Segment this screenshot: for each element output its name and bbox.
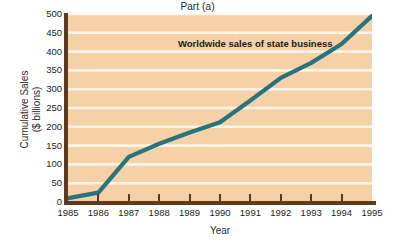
x-axis-tick-label: 1995 (352, 207, 392, 218)
x-axis-tick-mark (97, 194, 99, 202)
x-axis-tick-labels: 1985198619871988198919901991199219931994… (0, 0, 395, 242)
x-axis-tick-mark (219, 194, 221, 202)
x-axis-title: Year (68, 225, 372, 236)
x-axis-tick-mark (280, 194, 282, 202)
x-axis-tick-mark (128, 194, 130, 202)
y-axis-title: Cumulative Sales ($ billions) (19, 20, 42, 200)
chart-figure: Part (a) Worldwide sales of state busine… (0, 0, 395, 242)
y-axis-title-line-2: ($ billions) (30, 20, 42, 200)
x-axis-tick-mark (341, 194, 343, 202)
y-axis-title-line-1: Cumulative Sales (19, 71, 30, 149)
x-axis-tick-mark (158, 194, 160, 202)
x-axis-tick-mark (310, 194, 312, 202)
x-axis-tick-mark (249, 194, 251, 202)
x-axis-tick-mark (189, 194, 191, 202)
